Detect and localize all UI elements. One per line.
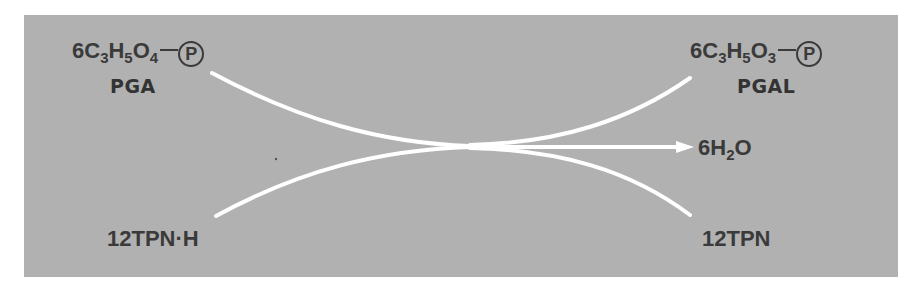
tpn-formula: 12TPN [702, 228, 770, 250]
bond-line [778, 49, 796, 51]
tpnh-curve [216, 147, 470, 216]
arrowhead-icon [676, 141, 694, 153]
pgal-name: PGAL [737, 75, 795, 97]
phosphate-icon: P [178, 41, 204, 67]
tpn-curve [470, 148, 690, 215]
tpnh-formula: 12TPN·H [107, 228, 199, 250]
pga-curve [212, 73, 470, 146]
pgal-curve [470, 78, 690, 145]
pga-formula: 6C3H5O4P [72, 40, 204, 67]
bond-line [160, 49, 178, 51]
phosphate-icon: P [796, 41, 822, 67]
pga-name: PGA [110, 75, 156, 97]
pgal-formula: 6C3H5O3P [690, 40, 822, 67]
water-formula: 6H2O [698, 137, 752, 162]
